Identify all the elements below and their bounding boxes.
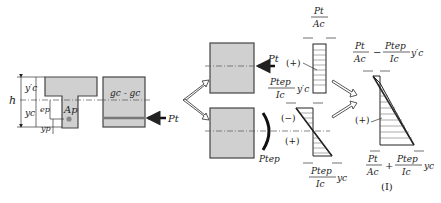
svg-text:Ic: Ic xyxy=(315,179,325,189)
svg-text:Pt: Pt xyxy=(354,41,365,51)
prestress-stress-diagram: h y′c yc ep yp Ap gc - gc Pt Pt (+) xyxy=(0,0,441,203)
svg-text:Ic: Ic xyxy=(275,90,285,100)
label-Pt: Pt xyxy=(167,113,180,124)
svg-text:Ic: Ic xyxy=(389,54,399,64)
svg-text:Ac: Ac xyxy=(366,167,379,177)
svg-text:y′c: y′c xyxy=(410,48,423,58)
svg-text:Ptep: Ptep xyxy=(269,77,291,87)
label-h: h xyxy=(9,94,16,107)
svg-text:Pt: Pt xyxy=(313,6,324,16)
svg-text:Ac: Ac xyxy=(353,54,366,64)
moment-arrow xyxy=(263,113,269,150)
split-arrows xyxy=(183,80,209,120)
svg-text:Ac: Ac xyxy=(312,19,325,29)
label-yc-prime: y′c xyxy=(24,83,37,93)
combine-arrows xyxy=(332,80,357,118)
case-label: (Ⅰ) xyxy=(381,181,393,192)
svg-text:yc: yc xyxy=(336,173,347,183)
label-Pt-axial: Pt xyxy=(267,53,280,64)
label-Ap: Ap xyxy=(63,104,78,115)
svg-text:+: + xyxy=(385,160,393,171)
svg-text:Ptep: Ptep xyxy=(396,154,418,164)
svg-text:yc: yc xyxy=(423,161,434,171)
result-stress-diagram: (+) Pt Ac − Ptep Ic y′c Pt Ac + Ptep Ic … xyxy=(353,41,434,192)
svg-text:Pt: Pt xyxy=(367,154,378,164)
svg-text:Ptep: Ptep xyxy=(384,41,406,51)
svg-text:(+): (+) xyxy=(355,115,370,125)
svg-text:−: − xyxy=(373,47,381,58)
label-ep: ep xyxy=(40,105,50,114)
label-gc-gc: gc - gc xyxy=(110,88,140,98)
svg-text:Ptep: Ptep xyxy=(258,154,280,164)
tendon-dot xyxy=(66,116,71,121)
svg-text:(+): (+) xyxy=(285,136,300,146)
label-yp: yp xyxy=(40,124,51,133)
moment-component: Ptep (−) (+) Ptep Ic y′c Ptep Ic yc xyxy=(205,77,347,189)
svg-text:Ic: Ic xyxy=(401,167,411,177)
svg-text:y′c: y′c xyxy=(296,84,309,94)
beam-elevation: gc - gc Pt xyxy=(100,77,180,127)
label-yc: yc xyxy=(24,108,35,118)
t-section: h y′c yc ep yp Ap xyxy=(9,77,100,134)
svg-text:Ptep: Ptep xyxy=(310,166,332,176)
sign-plus-axial: (+) xyxy=(286,58,301,68)
svg-text:(−): (−) xyxy=(281,113,296,123)
